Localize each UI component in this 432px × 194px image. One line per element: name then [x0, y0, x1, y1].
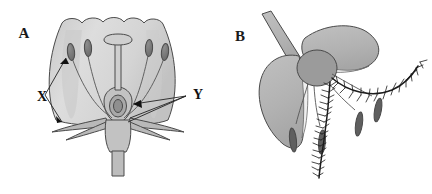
label-x: X	[37, 89, 47, 104]
figure-canvas: A	[0, 0, 432, 194]
panel-a-letter: A	[19, 25, 30, 41]
ovule	[114, 100, 123, 113]
panel-b-letter: B	[235, 28, 245, 44]
style	[115, 44, 121, 90]
feathery-stigma-1	[312, 82, 336, 178]
ovary-base	[105, 120, 131, 152]
ovary-b	[297, 50, 337, 86]
botany-figure: A	[0, 0, 432, 194]
anther-b-3	[354, 112, 364, 137]
label-y: Y	[193, 87, 203, 102]
stigma	[104, 34, 132, 45]
pedicel	[112, 151, 124, 176]
panel-a: A	[19, 18, 204, 177]
panel-b: B	[235, 11, 427, 178]
